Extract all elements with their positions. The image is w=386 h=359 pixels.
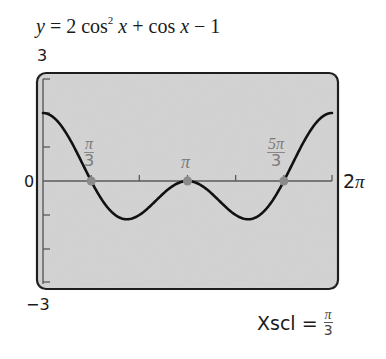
zero-label-pi-over-3: π3 (84, 134, 94, 169)
zero-point (279, 177, 288, 186)
zero-point (183, 177, 192, 186)
zero-label-pi: π (181, 152, 190, 173)
function-title: y = 2 cos2 x + cos x − 1 (36, 14, 220, 38)
zero-label-5pi-over-3: 5π3 (267, 134, 285, 169)
graphing-calculator-screen (0, 0, 386, 359)
xmax-label: 2π (343, 170, 365, 193)
zero-point (87, 177, 96, 186)
ymax-label: 3 (37, 46, 47, 65)
xscl-label: Xscl = π3 (257, 308, 333, 337)
ymin-label: −3 (26, 295, 50, 314)
xmin-label: 0 (24, 172, 34, 191)
